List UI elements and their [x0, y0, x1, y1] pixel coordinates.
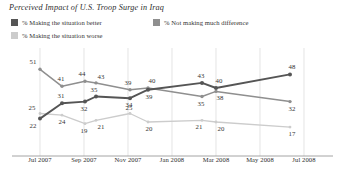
chart-series: 252419212520212017	[29, 104, 296, 138]
data-point	[215, 121, 218, 124]
data-point	[38, 117, 42, 121]
data-point	[83, 100, 87, 104]
legend-label-no-difference: % Not making much difference	[164, 19, 248, 26]
data-label: 21	[196, 123, 203, 130]
data-label: 19	[81, 127, 88, 134]
x-axis-tick-1: Sep 2007	[71, 156, 97, 163]
data-label: 43	[198, 72, 205, 79]
data-point	[83, 80, 86, 83]
chart-plot-area: 2524192125202120175141444339403538322231…	[0, 44, 345, 174]
legend-item-no-difference: % Not making much difference	[153, 19, 248, 26]
data-point	[200, 81, 204, 85]
line-chart-svg: 2524192125202120175141444339403538322231…	[0, 44, 345, 174]
data-point	[146, 88, 150, 92]
data-label: 38	[217, 94, 224, 101]
chart-series: 223132353439434048	[30, 63, 296, 128]
data-label: 17	[289, 130, 296, 137]
data-label: 39	[146, 93, 153, 100]
data-point	[60, 85, 63, 88]
x-axis-tick-6: Jul 2008	[292, 156, 315, 163]
data-point	[128, 96, 132, 100]
x-axis-tick-labels: Jul 2007Sep 2007Nov 2007Jan 2008Mar 2008…	[0, 156, 345, 170]
chart-figure: Perceived Impact of U.S. Troop Surge in …	[0, 0, 345, 174]
data-label: 32	[289, 105, 296, 112]
data-point	[288, 72, 292, 76]
data-label: 20	[218, 125, 225, 132]
data-label: 48	[289, 63, 296, 70]
data-point	[129, 112, 132, 115]
data-label: 40	[149, 77, 156, 84]
legend-item-worse: % Making the situation worse	[11, 32, 103, 39]
data-label: 43	[98, 73, 105, 80]
legend-swatch-icon	[153, 19, 160, 26]
data-point	[60, 101, 64, 105]
x-axis-tick-0: Jul 2007	[28, 156, 51, 163]
x-axis-tick-3: Jan 2008	[160, 156, 184, 163]
data-point	[214, 86, 218, 90]
data-point	[94, 81, 97, 84]
x-axis-tick-4: Mar 2008	[203, 156, 230, 163]
legend-swatch-icon	[11, 19, 18, 26]
data-label: 44	[79, 70, 86, 77]
data-label: 24	[59, 118, 66, 125]
data-label: 32	[81, 105, 88, 112]
data-label: 22	[30, 122, 37, 129]
data-point	[95, 119, 98, 122]
data-label: 41	[58, 75, 65, 82]
data-point	[128, 88, 131, 91]
data-label: 35	[91, 86, 98, 93]
data-label: 20	[146, 125, 153, 132]
data-label: 35	[198, 100, 205, 107]
data-label: 51	[30, 58, 37, 65]
legend-swatch-icon	[11, 32, 18, 39]
data-label: 25	[29, 104, 36, 111]
series-line	[40, 114, 290, 128]
data-point	[38, 68, 41, 71]
data-point	[39, 112, 42, 115]
data-label: 39	[125, 79, 132, 86]
x-axis-tick-2: Nov 2007	[115, 156, 142, 163]
series-line	[40, 69, 290, 101]
data-point	[200, 95, 203, 98]
x-axis-tick-5: May 2008	[246, 156, 274, 163]
data-point	[289, 126, 292, 129]
legend-item-better: % Making the situation better	[11, 19, 102, 26]
data-point	[288, 100, 291, 103]
legend-label-worse: % Making the situation worse	[22, 32, 103, 39]
page-title: Perceived Impact of U.S. Troop Surge in …	[9, 3, 164, 12]
legend-label-better: % Making the situation better	[22, 19, 102, 26]
data-point	[214, 90, 217, 93]
data-point	[201, 119, 204, 122]
data-label: 34	[126, 101, 133, 108]
data-point	[147, 121, 150, 124]
data-label: 40	[216, 77, 223, 84]
data-label: 21	[98, 123, 105, 130]
data-label: 31	[58, 92, 65, 99]
data-point	[94, 95, 98, 99]
data-point	[84, 122, 87, 125]
data-point	[61, 114, 64, 117]
